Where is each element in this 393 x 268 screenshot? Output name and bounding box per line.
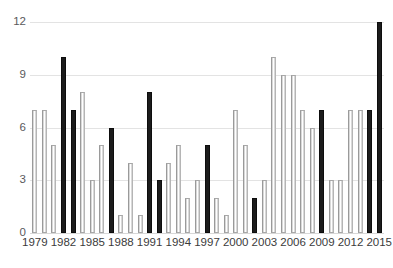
bar (291, 75, 296, 233)
bar (166, 163, 171, 233)
bar (262, 180, 267, 233)
x-axis: 1979198219851988199119941997200020032006… (0, 236, 390, 256)
bar (367, 110, 372, 233)
bar (109, 128, 114, 234)
bar (338, 180, 343, 233)
x-tick-label: 2000 (222, 236, 250, 249)
bar (252, 198, 257, 233)
x-tick-label: 1997 (193, 236, 221, 249)
bar (185, 198, 190, 233)
bar (157, 180, 162, 233)
x-tick-label: 2015 (365, 236, 393, 249)
bar (176, 145, 181, 233)
bar (358, 110, 363, 233)
bars-group (30, 22, 384, 233)
bar (138, 215, 143, 233)
x-tick-label: 2012 (337, 236, 365, 249)
bar (80, 92, 85, 233)
bar (118, 215, 123, 233)
bar (147, 92, 152, 233)
bar (348, 110, 353, 233)
y-tick-label: 12 (0, 16, 26, 28)
bar (90, 180, 95, 233)
bar (300, 110, 305, 233)
bar (195, 180, 200, 233)
y-axis: 036912 (0, 0, 26, 268)
x-tick-label: 2009 (308, 236, 336, 249)
bar (377, 22, 382, 233)
bar (243, 145, 248, 233)
y-tick-label: 3 (0, 174, 26, 186)
bar (42, 110, 47, 233)
gridline-0 (30, 233, 384, 234)
bar (71, 110, 76, 233)
bar (51, 145, 56, 233)
x-tick-label: 1979 (21, 236, 49, 249)
bar (99, 145, 104, 233)
x-tick-label: 2006 (279, 236, 307, 249)
bar (281, 75, 286, 233)
bar (205, 145, 210, 233)
bar (329, 180, 334, 233)
bar (233, 110, 238, 233)
x-tick-label: 1985 (78, 236, 106, 249)
x-tick-label: 2003 (250, 236, 278, 249)
plot-area (30, 22, 384, 233)
y-tick-label: 9 (0, 69, 26, 81)
x-tick-label: 1994 (164, 236, 192, 249)
bar (319, 110, 324, 233)
bar (224, 215, 229, 233)
bar (61, 57, 66, 233)
x-tick-label: 1982 (49, 236, 77, 249)
x-tick-label: 1988 (107, 236, 135, 249)
bar (271, 57, 276, 233)
bar (214, 198, 219, 233)
y-tick-label: 6 (0, 122, 26, 134)
bar (310, 128, 315, 234)
bar (32, 110, 37, 233)
bar (128, 163, 133, 233)
x-tick-label: 1991 (136, 236, 164, 249)
